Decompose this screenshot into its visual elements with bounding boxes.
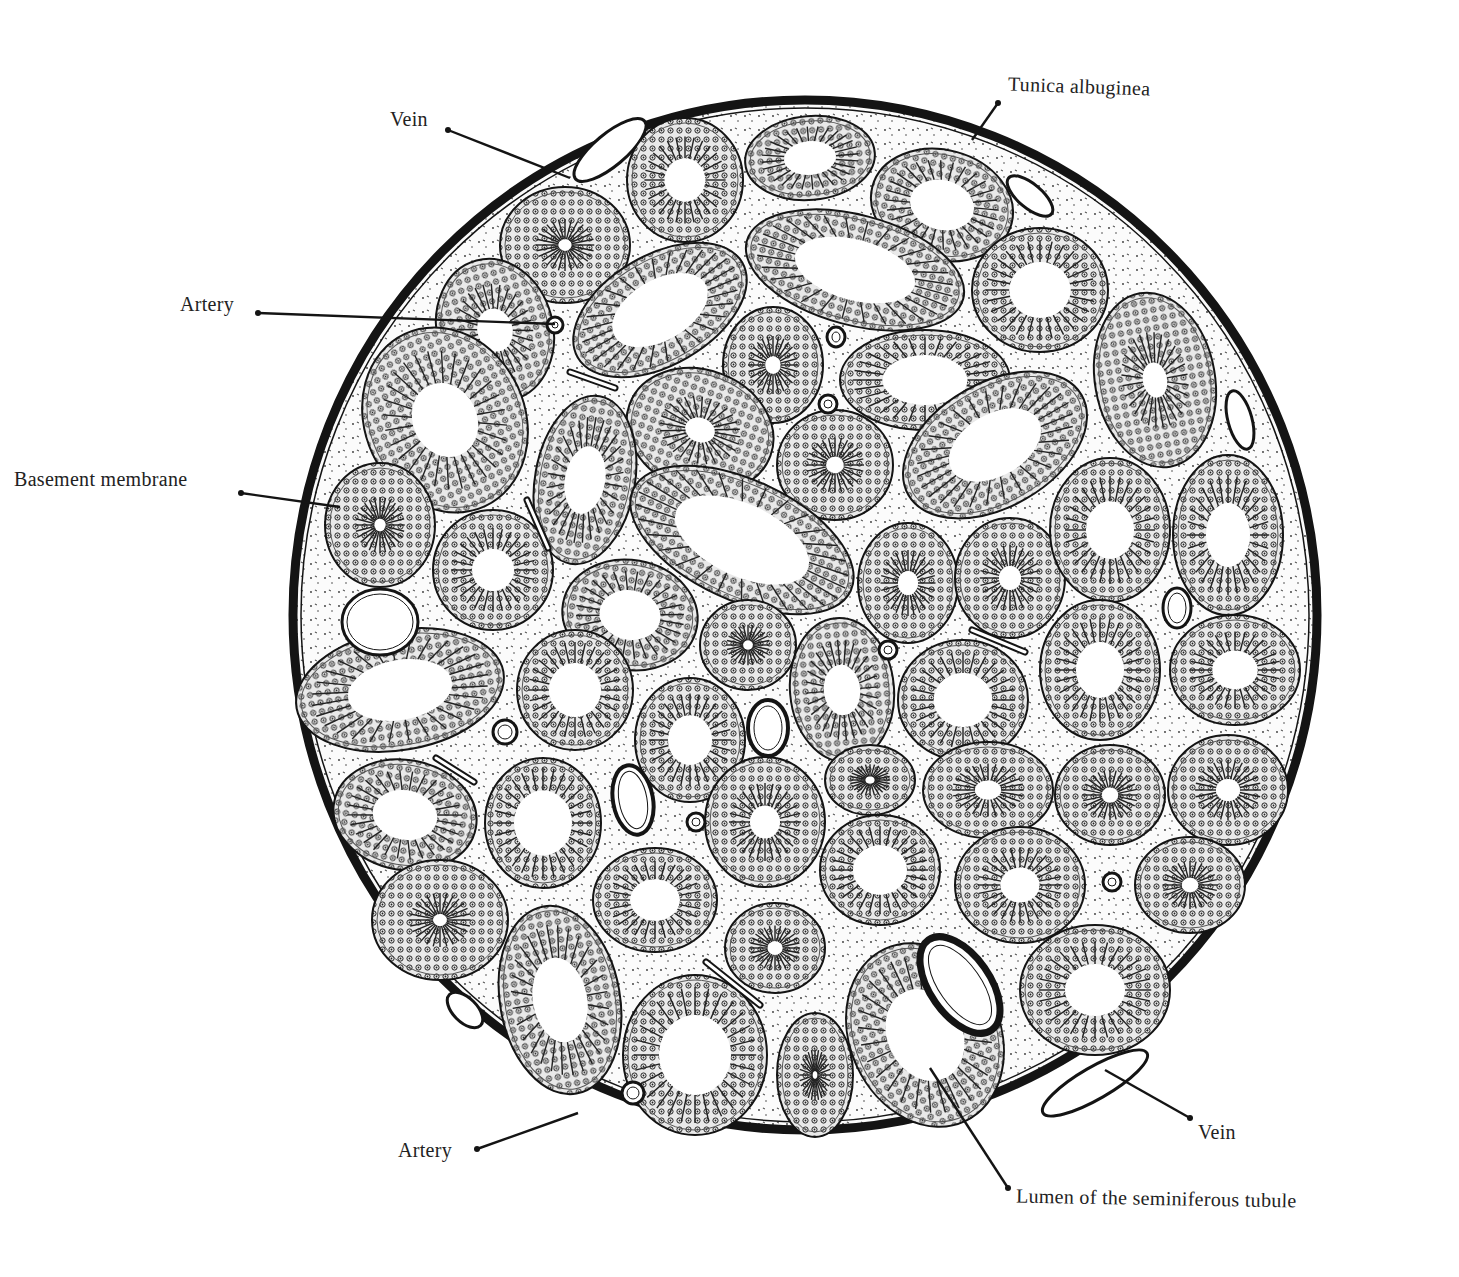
vessel-wall (1163, 588, 1191, 628)
seminiferous-tubule (593, 848, 717, 952)
seminiferous-tubule (1055, 745, 1165, 845)
seminiferous-tubule (623, 975, 767, 1135)
tubule-lumen (999, 566, 1021, 590)
tubule-lumen (665, 158, 706, 201)
label-vein-bottom: Vein (1198, 1121, 1236, 1144)
leader-dot-artery-bottom (474, 1146, 480, 1152)
artery (879, 641, 897, 659)
vessel-wall (547, 317, 563, 333)
tubule-lumen (1182, 878, 1199, 892)
tubule-lumen (853, 845, 907, 895)
tubule-lumen (750, 806, 780, 839)
tubule-lumen (472, 549, 514, 591)
artery (547, 317, 563, 333)
tubule-lumen (743, 641, 753, 650)
tubule-lumen (766, 356, 781, 373)
tubule-lumen (1076, 642, 1124, 698)
tubule-lumen (659, 1015, 731, 1095)
tubule-lumen (866, 777, 875, 784)
leader-line-artery-bottom (477, 1113, 578, 1149)
label-artery-bottom: Artery (398, 1139, 452, 1162)
tubule-lumen (559, 239, 572, 251)
seminiferous-tubule (1020, 925, 1170, 1055)
leader-dot-basement-membrane (238, 490, 244, 496)
tubule-lumen (813, 1071, 818, 1078)
vessel-wall (342, 589, 418, 655)
seminiferous-tubule (1168, 735, 1288, 845)
leader-line-vein-bottom (1105, 1070, 1190, 1118)
leader-dot-artery-top (255, 310, 261, 316)
leader-dot-vein-top (445, 127, 451, 133)
label-basement-membrane: Basement membrane (14, 468, 187, 491)
label-artery-top: Artery (180, 293, 234, 316)
seminiferous-tubule (627, 118, 743, 242)
tubule-lumen (1009, 262, 1070, 318)
seminiferous-tubule (700, 600, 796, 690)
seminiferous-tubule (777, 1013, 853, 1137)
tubule-lumen (826, 457, 843, 474)
seminiferous-tubule (825, 745, 915, 815)
seminiferous-tubule (517, 630, 633, 750)
artery (622, 1082, 644, 1104)
tubule-lumen (433, 914, 447, 926)
tubule-lumen (549, 663, 601, 717)
tubule-lumen (1216, 779, 1240, 801)
seminiferous-tubule (725, 903, 825, 993)
vessel-wall (1103, 873, 1121, 891)
tubule-lumen (1206, 503, 1250, 567)
tubule-lumen (934, 673, 993, 727)
seminiferous-tubule (820, 815, 940, 925)
vessel-wall (622, 1082, 644, 1104)
tubule-lumen (1212, 651, 1258, 690)
tubule-lumen (668, 715, 712, 765)
testis-cross-section-figure: Vein Tunica albuginea Artery Basement me… (0, 0, 1459, 1277)
seminiferous-tubule (972, 228, 1108, 352)
tubule-lumen (975, 780, 1001, 799)
label-tunica-albuginea: Tunica albuginea (1008, 73, 1151, 101)
testis-diagram-svg (0, 0, 1459, 1277)
tubule-lumen (1001, 868, 1040, 903)
vessel-wall (827, 327, 845, 347)
tubule-lumen (768, 941, 783, 955)
vessel-wall (493, 720, 517, 744)
seminiferous-tubule (1050, 458, 1170, 602)
seminiferous-tubule (325, 463, 435, 587)
leader-dot-lumen (1005, 1185, 1011, 1191)
seminiferous-tubule (485, 758, 601, 888)
seminiferous-tubule (1173, 455, 1283, 615)
label-vein-top: Vein (390, 108, 428, 131)
seminiferous-tubule (955, 827, 1085, 943)
seminiferous-tubule (858, 523, 958, 643)
tubule-lumen (1065, 964, 1125, 1016)
seminiferous-tubule (898, 640, 1028, 760)
tubule-lumen (1086, 501, 1134, 559)
vein (342, 589, 418, 655)
seminiferous-tubule (1170, 615, 1300, 725)
seminiferous-tubule (705, 757, 825, 887)
vein (748, 700, 788, 756)
vessel-wall (819, 395, 837, 413)
seminiferous-tubule (433, 510, 553, 630)
label-lumen-seminiferous-tubule: Lumen of the seminiferous tubule (1016, 1185, 1297, 1213)
seminiferous-tubule (1135, 837, 1245, 933)
leader-dot-tunica-albuginea (995, 100, 1001, 106)
seminiferous-tubule (372, 860, 508, 980)
tubule-lumen (375, 519, 386, 531)
seminiferous-tubule (1040, 600, 1160, 740)
tubule-lumen (1102, 788, 1119, 803)
seminiferous-tubule (955, 518, 1065, 638)
tubule-lumen (630, 879, 680, 921)
vein (1163, 588, 1191, 628)
seminiferous-tubule (923, 742, 1053, 838)
artery (1103, 873, 1121, 891)
artery (687, 813, 705, 831)
artery (493, 720, 517, 744)
tubule-lumen (898, 571, 918, 595)
artery (819, 395, 837, 413)
leader-dot-vein-bottom (1187, 1115, 1193, 1121)
vessel-wall (687, 813, 705, 831)
tubule-lumen (514, 791, 572, 856)
leader-line-vein-top (448, 130, 570, 178)
artery (827, 327, 845, 347)
vessel-wall (879, 641, 897, 659)
